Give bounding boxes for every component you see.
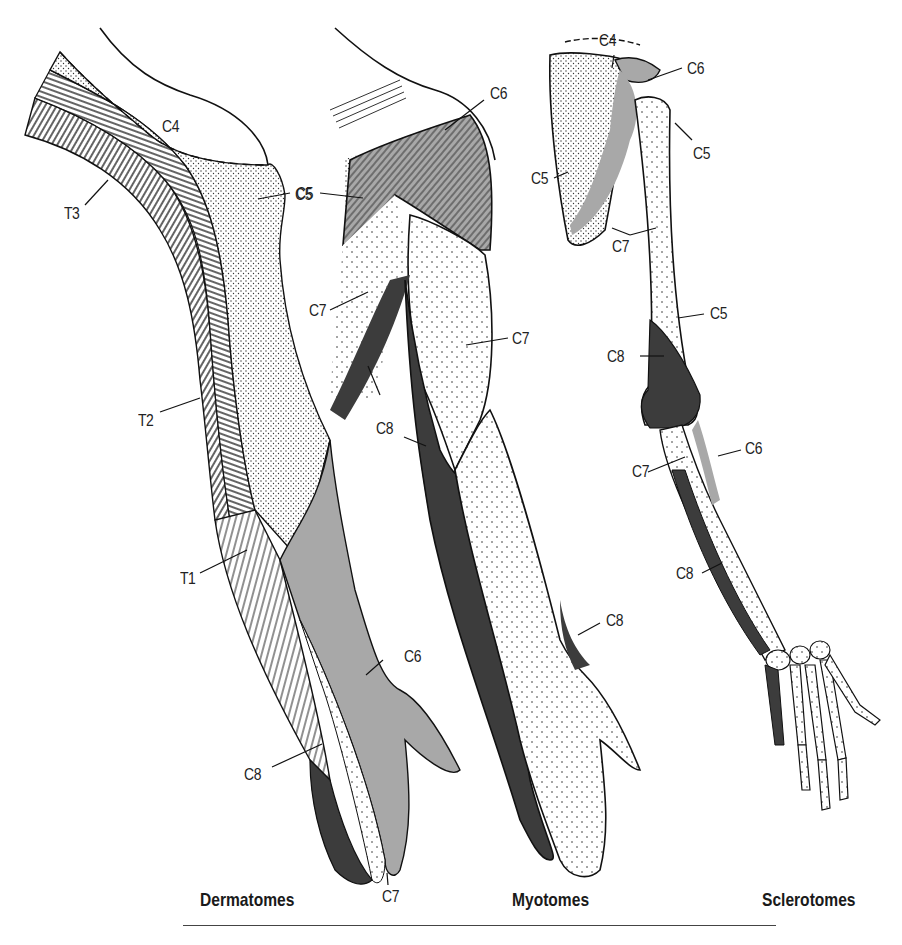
myotome-label-c8-strap: C8 (376, 420, 393, 437)
dermatome-label-c6: C6 (404, 648, 421, 665)
caption-sclerotomes: Sclerotomes (762, 890, 856, 909)
caption-dermatomes: Dermatomes (200, 890, 294, 909)
myotome-label-c8-forearm: C8 (606, 612, 623, 629)
sclerotome-label-c6-radius: C6 (745, 440, 762, 457)
sclerotome-label-c5-scapula: C5 (531, 170, 548, 187)
sclerotome-label-c7-ulna: C7 (632, 463, 649, 480)
dermatome-label-c4: C4 (162, 118, 179, 135)
dermatome-label-t2: T2 (138, 412, 153, 429)
anatomy-illustration (0, 0, 902, 945)
sclerotome-label-c7-humerus: C7 (612, 238, 629, 255)
myotome-label-c7-biceps: C7 (512, 330, 529, 347)
sclerotome-label-c8-humerus: C8 (607, 348, 624, 365)
myotome-label-c7-upper: C7 (309, 302, 326, 319)
dermatome-label-t3: T3 (64, 205, 79, 222)
sclerotome-label-c5-shaft: C5 (710, 305, 727, 322)
myotome-label-c6: C6 (490, 85, 507, 102)
arm-segmental-innervation-figure: C4 C5 T3 T2 T1 C6 C8 C7 C6 C5 C7 C7 C8 C… (0, 0, 902, 945)
dermatome-label-c8: C8 (244, 766, 261, 783)
dermatome-label-c7: C7 (382, 888, 399, 905)
caption-divider (183, 925, 776, 926)
dermatome-label-t1: T1 (180, 570, 195, 587)
sclerotome-label-c6-acromion: C6 (687, 60, 704, 77)
sclerotome-label-c5-head: C5 (693, 145, 710, 162)
sclerotome-label-c8-ulna: C8 (676, 565, 693, 582)
myotome-label-c5: C5 (295, 186, 312, 203)
sclerotome-label-c4: C4 (599, 32, 616, 49)
caption-myotomes: Myotomes (512, 890, 589, 909)
